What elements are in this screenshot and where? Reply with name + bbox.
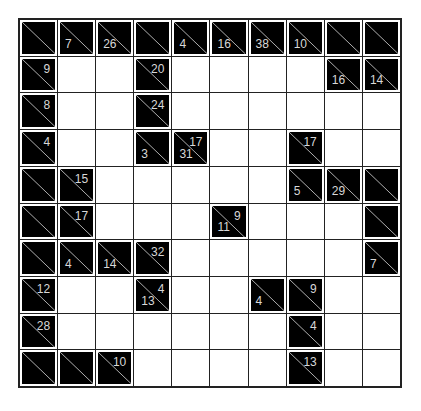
diagonal-divider-icon [22,95,55,127]
clue-cell: 17 [58,204,95,240]
down-clue: 26 [103,38,116,50]
entry-cell[interactable] [249,314,286,350]
clue-cell: 16 [210,20,247,56]
clue-cell: 4 [172,20,209,56]
entry-cell[interactable] [210,57,247,93]
entry-cell[interactable] [363,350,400,386]
down-clue: 4 [179,38,186,50]
entry-cell[interactable] [134,350,171,386]
entry-cell[interactable] [210,167,247,203]
diagonal-divider-icon [22,22,55,54]
clue-cell: 9 [287,277,324,313]
entry-cell[interactable] [58,57,95,93]
across-clue: 15 [75,173,88,185]
entry-cell[interactable] [96,167,133,203]
clue-cell: 38 [249,20,286,56]
across-clue: 17 [75,210,88,222]
entry-cell[interactable] [363,130,400,166]
clue-block: 14 [365,59,398,91]
entry-cell[interactable] [96,204,133,240]
entry-cell[interactable] [96,277,133,313]
entry-cell[interactable] [58,277,95,313]
entry-cell[interactable] [58,130,95,166]
entry-cell[interactable] [325,277,362,313]
across-clue: 32 [151,246,164,258]
clue-block: 28 [22,316,55,348]
entry-cell[interactable] [96,93,133,129]
entry-cell[interactable] [249,240,286,276]
clue-block: 7 [60,22,93,54]
entry-cell[interactable] [172,57,209,93]
entry-cell[interactable] [325,204,362,240]
clue-block: 1731 [174,132,207,164]
clue-block: 13 [289,352,322,384]
entry-cell[interactable] [325,314,362,350]
diagonal-divider-icon [22,352,55,384]
across-clue: 4 [158,283,165,295]
clue-cell [20,204,57,240]
entry-cell[interactable] [249,130,286,166]
entry-cell[interactable] [325,93,362,129]
entry-cell[interactable] [325,130,362,166]
clue-block [22,22,55,54]
clue-block: 26 [98,22,131,54]
entry-cell[interactable] [249,93,286,129]
diagonal-divider-icon [22,242,55,274]
clue-block: 12 [22,279,55,311]
entry-cell[interactable] [287,240,324,276]
clue-cell: 26 [96,20,133,56]
entry-cell[interactable] [325,240,362,276]
entry-cell[interactable] [134,314,171,350]
entry-cell[interactable] [363,277,400,313]
clue-block: 9 [22,59,55,91]
entry-cell[interactable] [210,277,247,313]
entry-cell[interactable] [58,314,95,350]
entry-cell[interactable] [249,167,286,203]
kakuro-grid: 7264163810920161482443173117155291791141… [18,18,402,388]
entry-cell[interactable] [249,350,286,386]
entry-cell[interactable] [172,204,209,240]
across-clue: 10 [113,356,126,368]
entry-cell[interactable] [172,93,209,129]
entry-cell[interactable] [249,57,286,93]
diagonal-divider-icon [365,22,398,54]
entry-cell[interactable] [96,57,133,93]
clue-block: 4 [251,279,284,311]
entry-cell[interactable] [134,167,171,203]
entry-cell[interactable] [363,93,400,129]
across-clue: 4 [310,320,317,332]
clue-cell: 3 [134,130,171,166]
entry-cell[interactable] [287,57,324,93]
entry-cell[interactable] [210,240,247,276]
entry-cell[interactable] [325,350,362,386]
clue-cell: 24 [134,93,171,129]
entry-cell[interactable] [210,350,247,386]
across-clue: 9 [43,63,50,75]
down-clue: 11 [217,221,229,233]
entry-cell[interactable] [172,167,209,203]
entry-cell[interactable] [96,314,133,350]
entry-cell[interactable] [210,93,247,129]
entry-cell[interactable] [172,240,209,276]
entry-cell[interactable] [363,314,400,350]
clue-block: 9 [289,279,322,311]
entry-cell[interactable] [58,93,95,129]
entry-cell[interactable] [287,204,324,240]
entry-cell[interactable] [210,314,247,350]
clue-cell [20,20,57,56]
clue-cell [20,167,57,203]
entry-cell[interactable] [287,93,324,129]
entry-cell[interactable] [210,130,247,166]
diagonal-divider-icon [365,169,398,201]
entry-cell[interactable] [172,350,209,386]
diagonal-divider-icon [327,22,360,54]
clue-block [365,169,398,201]
clue-cell: 4 [58,240,95,276]
entry-cell[interactable] [96,130,133,166]
clue-cell: 911 [210,204,247,240]
entry-cell[interactable] [172,314,209,350]
entry-cell[interactable] [134,204,171,240]
clue-cell: 28 [20,314,57,350]
entry-cell[interactable] [249,204,286,240]
entry-cell[interactable] [172,277,209,313]
